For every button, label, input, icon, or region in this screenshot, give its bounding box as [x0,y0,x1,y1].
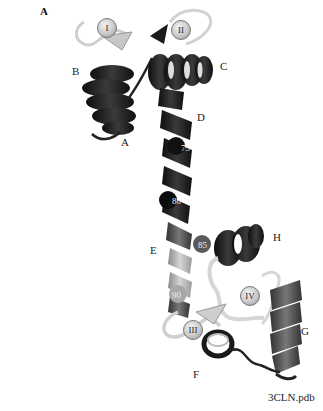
calmodulin-structure-figure: A B A C D E F G H I II III IV 75 80 85 9… [0,0,323,411]
residue-label-75: 75 [181,143,190,153]
helix-label-F: F [193,369,199,380]
helix-C [148,54,213,90]
residue-label-80: 80 [172,196,181,206]
calcium-ion-III: III [183,320,203,340]
beta-strand-II [150,24,168,44]
calcium-ion-IV: IV [240,286,260,306]
pdb-id-label: 3CLN.pdb [268,392,315,403]
helix-label-A: A [121,137,129,148]
helix-label-G: G [301,326,309,337]
calcium-ion-I: I [97,18,117,38]
helix-label-E: E [150,245,157,256]
helix-label-C: C [220,61,227,72]
residue-label-90: 90 [172,290,181,300]
calcium-ion-II: II [171,20,191,40]
helix-label-D: D [197,112,205,123]
helix-label-B: B [72,66,79,77]
helix-F [204,332,232,356]
residue-label-85: 85 [198,240,207,250]
helix-G [270,280,302,374]
panel-label: A [40,6,48,17]
ribbon-diagram [0,0,323,411]
helix-label-H: H [273,232,281,243]
